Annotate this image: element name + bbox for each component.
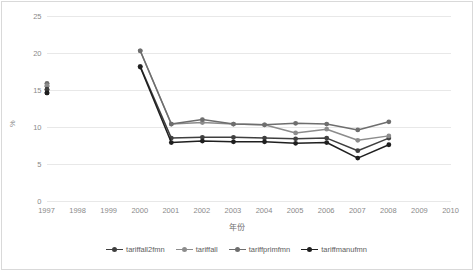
data-point <box>231 121 236 126</box>
series-layer <box>47 16 451 201</box>
series-line <box>140 67 389 158</box>
data-point <box>168 140 173 145</box>
x-tick-label: 2006 <box>318 206 335 215</box>
data-point <box>355 155 360 160</box>
data-point <box>324 140 329 145</box>
data-point <box>355 148 360 153</box>
legend-label: tariffall <box>196 245 218 254</box>
series-tariffprimfmn <box>44 48 391 132</box>
plot-area: 0510152025 19971998199920002001200220032… <box>47 16 451 201</box>
x-tick-label: 2009 <box>411 206 428 215</box>
series-tariffall <box>44 48 391 142</box>
x-tick-label: 2007 <box>349 206 366 215</box>
gridline <box>47 201 451 202</box>
data-point <box>386 119 391 124</box>
data-point <box>293 140 298 145</box>
chart-container: % 0510152025 199719981999200020012002200… <box>1 1 473 270</box>
x-tick-label: 2003 <box>225 206 242 215</box>
legend-label: tariffall2fmn <box>126 245 165 254</box>
y-tick-label: 20 <box>33 48 41 57</box>
data-point <box>231 139 236 144</box>
legend-item-tariffmanufmn[interactable]: tariffmanufmn <box>301 245 367 254</box>
series-line <box>140 50 389 129</box>
data-point <box>168 121 173 126</box>
data-point <box>355 137 360 142</box>
data-point <box>137 48 142 53</box>
x-tick-label: 2000 <box>131 206 148 215</box>
legend-item-tariffall2fmn[interactable]: tariffall2fmn <box>106 245 165 254</box>
series-tariffmanufmn <box>44 64 391 160</box>
series-tariffall2fmn <box>44 63 391 152</box>
x-tick-label: 1999 <box>100 206 117 215</box>
data-point <box>293 130 298 135</box>
data-point <box>324 135 329 140</box>
y-tick-label: 15 <box>33 85 41 94</box>
y-tick-label: 10 <box>33 122 41 131</box>
x-tick-label: 2005 <box>287 206 304 215</box>
legend-item-tariffall[interactable]: tariffall <box>176 245 218 254</box>
legend-marker-icon <box>301 246 318 253</box>
data-point <box>199 117 204 122</box>
data-point <box>231 134 236 139</box>
data-point <box>262 122 267 127</box>
legend-item-tariffprimfmn[interactable]: tariffprimfmn <box>229 245 291 254</box>
y-axis-title: % <box>8 120 17 127</box>
y-tick-label: 0 <box>37 196 41 205</box>
data-point <box>355 127 360 132</box>
x-tick-label: 2002 <box>194 206 211 215</box>
x-tick-label: 1998 <box>69 206 86 215</box>
y-tick-label: 25 <box>33 11 41 20</box>
x-tick-label: 2010 <box>442 206 459 215</box>
data-point <box>386 142 391 147</box>
legend-marker-icon <box>229 246 246 253</box>
data-point <box>293 136 298 141</box>
data-point <box>137 64 142 69</box>
data-point <box>262 139 267 144</box>
data-point <box>199 138 204 143</box>
x-tick-label: 1997 <box>38 206 55 215</box>
x-tick-label: 2008 <box>380 206 397 215</box>
legend-marker-icon <box>176 246 193 253</box>
x-tick-label: 2001 <box>162 206 179 215</box>
data-point <box>44 90 49 95</box>
markers-1997 <box>44 80 49 94</box>
data-point <box>324 121 329 126</box>
data-point <box>324 126 329 131</box>
y-tick-label: 5 <box>37 159 41 168</box>
chart-legend: tariffall2fmntariffalltariffprimfmntarif… <box>2 245 472 254</box>
x-tick-label: 2004 <box>256 206 273 215</box>
legend-label: tariffmanufmn <box>321 245 367 254</box>
legend-label: tariffprimfmn <box>249 245 291 254</box>
data-point <box>293 120 298 125</box>
data-point <box>386 133 391 138</box>
legend-marker-icon <box>106 246 123 253</box>
x-axis-title: 年份 <box>2 221 472 232</box>
